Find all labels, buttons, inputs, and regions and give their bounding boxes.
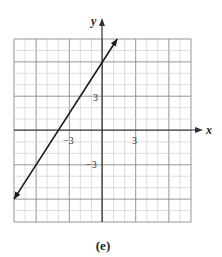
x-tick-label-neg3: −3 — [63, 135, 74, 146]
y-tick-label-neg3: −3 — [86, 159, 97, 170]
y-tick-label-pos3: 3 — [93, 92, 98, 103]
line-arrow-end-icon — [111, 39, 117, 47]
x-axis-arrow-icon — [195, 127, 203, 133]
x-axis-label: x — [205, 123, 212, 137]
y-axis-label: y — [89, 14, 97, 28]
x-tick-label-pos3: 3 — [132, 135, 137, 146]
line-arrow-start-icon — [14, 192, 20, 200]
y-axis-arrow-icon — [99, 18, 105, 26]
coordinate-plane: x y −3 3 3 −3 — [0, 0, 222, 257]
figure-caption: (e) — [0, 238, 206, 254]
axes — [14, 18, 203, 222]
